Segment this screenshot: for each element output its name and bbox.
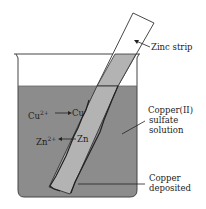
label-deposit-2: deposited bbox=[149, 183, 191, 193]
zinc-copper-diagram: Zinc strip Copper(II) sulfate solution C… bbox=[0, 0, 206, 209]
reaction-zn-ion: Zn2+ bbox=[36, 134, 56, 147]
label-solution-2: sulfate bbox=[149, 115, 178, 125]
label-solution-3: solution bbox=[149, 125, 183, 135]
label-zinc-strip: Zinc strip bbox=[151, 42, 193, 52]
reaction-zn-metal: Zn bbox=[77, 134, 88, 144]
label-deposit-1: Copper bbox=[149, 173, 181, 183]
reaction-cu-metal: Cu bbox=[72, 108, 84, 118]
reaction-cu-ion: Cu2+ bbox=[28, 108, 49, 121]
label-solution-1: Copper(II) bbox=[148, 105, 193, 115]
